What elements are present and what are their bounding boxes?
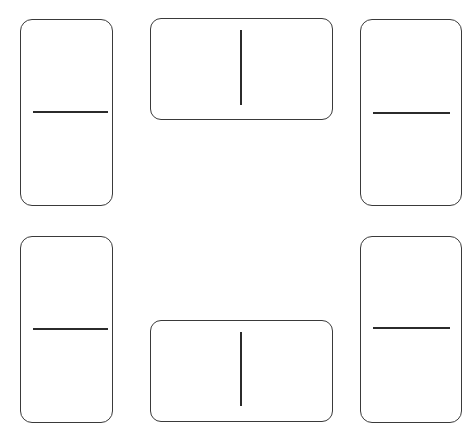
domino-tile-bottom-left[interactable] (20, 236, 113, 423)
domino-divider-top-left (33, 111, 108, 113)
domino-divider-bottom-center (240, 332, 242, 406)
domino-tile-top-center[interactable] (150, 18, 333, 120)
domino-tile-bottom-center[interactable] (150, 320, 333, 422)
domino-divider-top-right (373, 112, 450, 114)
domino-tile-top-left[interactable] (20, 19, 113, 206)
domino-divider-top-center (240, 30, 242, 105)
domino-divider-bottom-left (33, 328, 108, 330)
diagram-canvas (0, 0, 473, 431)
domino-divider-bottom-right (373, 327, 450, 329)
domino-tile-bottom-right[interactable] (360, 236, 462, 423)
